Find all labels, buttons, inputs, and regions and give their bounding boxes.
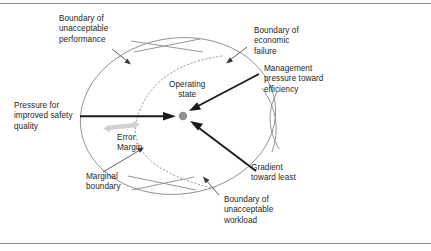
- label-economic-failure: Boundary of economic failure: [254, 26, 299, 57]
- operating-state-dot: [179, 112, 187, 120]
- marginal-boundary-tangent-a: [128, 176, 196, 190]
- error-margin-double-arrow: [103, 121, 140, 133]
- label-marginal-boundary: Marginal boundary: [86, 172, 121, 193]
- label-gradient-toward-least: Gradient toward least: [251, 163, 296, 184]
- label-unacceptable-workload: Boundary of unacceptable workload: [224, 195, 273, 226]
- label-pressure-for-safety: Pressure for improved safety quality: [14, 101, 73, 132]
- pressure-for-safety-arrow: [80, 112, 176, 120]
- marginal-boundary-dotted-curve: [135, 56, 222, 189]
- label-management-pressure: Management pressure toward efficiency: [264, 64, 323, 95]
- label-error-margin: Error Margin: [117, 133, 142, 154]
- diagram-root: Boundary of unacceptable performance Bou…: [0, 0, 431, 251]
- label-operating-state: Operating state: [169, 80, 205, 101]
- label-unacceptable-performance: Boundary of unacceptable performance: [59, 14, 108, 45]
- gradient-toward-least-effort-arrow: [190, 121, 256, 171]
